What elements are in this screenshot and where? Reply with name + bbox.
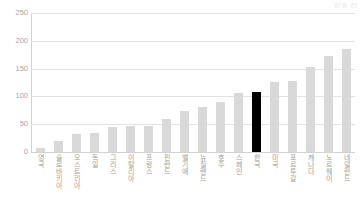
bar-그리스[interactable] bbox=[108, 127, 117, 152]
bar-스페인[interactable] bbox=[234, 93, 243, 152]
bar-slot bbox=[85, 13, 103, 152]
bar-slot bbox=[283, 13, 301, 152]
bar-slot bbox=[301, 13, 319, 152]
x-label-영국: 영국 bbox=[36, 154, 43, 168]
unit-annotation: (단위: 건) bbox=[334, 1, 357, 8]
bar-slot bbox=[103, 13, 121, 152]
x-axis-category-labels: 영국슬로바키아오스트리아독일그리스이탈리아프랑스핀란드벨기에뉴질랜드호주스페인한… bbox=[31, 154, 355, 199]
y-axis-tick-labels: 050100150200250 bbox=[0, 13, 28, 152]
x-label-스페인: 스페인 bbox=[234, 154, 241, 175]
bar-slot bbox=[211, 13, 229, 152]
y-tick-label-150: 150 bbox=[2, 65, 28, 73]
bar-slot bbox=[31, 13, 49, 152]
bar-slot bbox=[265, 13, 283, 152]
x-label-호주: 호주 bbox=[216, 154, 223, 168]
x-label-미국: 미국 bbox=[270, 154, 277, 168]
bar-slot bbox=[121, 13, 139, 152]
y-tick-label-0: 0 bbox=[2, 148, 28, 156]
bar-slot bbox=[337, 13, 355, 152]
x-label-벨기에: 벨기에 bbox=[180, 154, 187, 175]
bar-slot bbox=[139, 13, 157, 152]
bar-slot bbox=[67, 13, 85, 152]
plot-area bbox=[31, 13, 355, 152]
x-label-포르투갈: 포르투갈 bbox=[288, 154, 295, 182]
bar-slot bbox=[229, 13, 247, 152]
bar-핀란드[interactable] bbox=[162, 119, 171, 152]
bar-이탈리아[interactable] bbox=[126, 126, 135, 152]
bar-오스트리아[interactable] bbox=[72, 134, 81, 152]
x-label-한국: 한국 bbox=[252, 154, 259, 168]
y-tick-label-50: 50 bbox=[2, 120, 28, 128]
x-label-네덜란드: 네덜란드 bbox=[342, 154, 349, 182]
x-label-핀란드: 핀란드 bbox=[162, 154, 169, 175]
bar-한국[interactable] bbox=[252, 92, 261, 152]
bar-slot bbox=[319, 13, 337, 152]
bar-영국[interactable] bbox=[36, 148, 45, 152]
bar-chart: (단위: 건) 050100150200250 영국슬로바키아오스트리아독일그리… bbox=[0, 0, 361, 199]
bar-네덜란드[interactable] bbox=[342, 49, 351, 152]
bar-독일[interactable] bbox=[90, 133, 99, 152]
x-label-노르웨이: 노르웨이 bbox=[324, 154, 331, 182]
bar-slot bbox=[157, 13, 175, 152]
x-label-오스트리아: 오스트리아 bbox=[72, 154, 79, 189]
bar-미국[interactable] bbox=[270, 82, 279, 152]
bar-호주[interactable] bbox=[216, 102, 225, 152]
x-label-캐나다: 캐나다 bbox=[306, 154, 313, 175]
bar-노르웨이[interactable] bbox=[324, 56, 333, 152]
bar-slot bbox=[49, 13, 67, 152]
bar-프랑스[interactable] bbox=[144, 126, 153, 152]
x-label-그리스: 그리스 bbox=[108, 154, 115, 175]
bar-포르투갈[interactable] bbox=[288, 81, 297, 152]
gridline-0 bbox=[31, 152, 355, 153]
y-tick-label-100: 100 bbox=[2, 93, 28, 101]
bar-slot bbox=[247, 13, 265, 152]
bar-캐나다[interactable] bbox=[306, 67, 315, 152]
bar-벨기에[interactable] bbox=[180, 111, 189, 152]
x-label-프랑스: 프랑스 bbox=[144, 154, 151, 175]
bar-슬로바키아[interactable] bbox=[54, 141, 63, 152]
y-tick-label-250: 250 bbox=[2, 9, 28, 17]
bar-slot bbox=[175, 13, 193, 152]
x-label-이탈리아: 이탈리아 bbox=[126, 154, 133, 182]
bar-뉴질랜드[interactable] bbox=[198, 107, 207, 152]
x-label-뉴질랜드: 뉴질랜드 bbox=[198, 154, 205, 182]
x-label-독일: 독일 bbox=[90, 154, 97, 168]
bar-slot bbox=[193, 13, 211, 152]
y-tick-label-200: 200 bbox=[2, 37, 28, 45]
x-label-슬로바키아: 슬로바키아 bbox=[54, 154, 61, 189]
